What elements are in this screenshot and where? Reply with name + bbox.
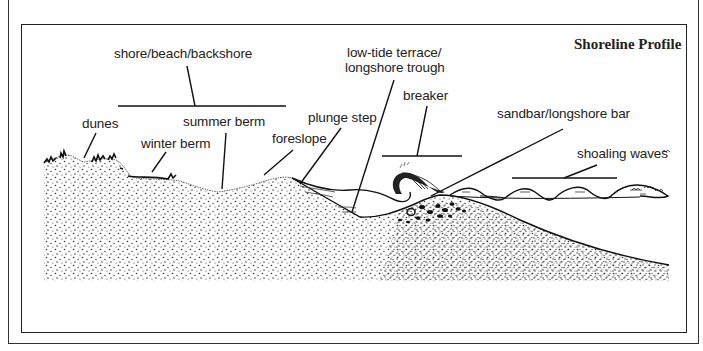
label-dunes: dunes bbox=[82, 116, 118, 131]
foreslope-leader bbox=[264, 150, 293, 175]
breaker-wave bbox=[393, 173, 445, 194]
label-sandbar: sandbar/longshore bar bbox=[497, 106, 630, 121]
label-foreslope: foreslope bbox=[272, 131, 327, 146]
breaker-leader bbox=[417, 106, 427, 156]
label-winter-berm: winter berm bbox=[141, 136, 210, 151]
label-shore-beach-backshore: shore/beach/backshore bbox=[114, 46, 252, 61]
label-breaker: breaker bbox=[403, 88, 448, 103]
label-longshore-trough: longshore trough bbox=[345, 60, 445, 75]
winter-berm-leader bbox=[152, 152, 166, 172]
breaker-spray bbox=[400, 162, 409, 168]
label-shoaling-waves: shoaling waves bbox=[577, 146, 668, 161]
label-summer-berm: summer berm bbox=[183, 114, 265, 129]
sand-dense bbox=[380, 202, 669, 281]
summer-berm-leader bbox=[222, 133, 226, 189]
sandbar-leader bbox=[431, 129, 563, 196]
diagram-title: Shoreline Profile bbox=[574, 36, 681, 53]
shore-leader bbox=[187, 66, 195, 106]
dunes-leader bbox=[84, 133, 96, 158]
shoaling-leader bbox=[564, 165, 597, 178]
label-low-tide-terrace: low-tide terrace/ bbox=[347, 45, 441, 60]
label-plunge-step: plunge step bbox=[308, 110, 377, 125]
